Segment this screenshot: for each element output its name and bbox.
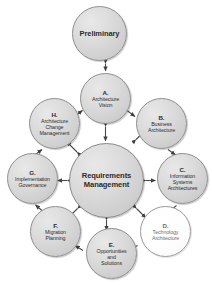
node-phase-f-letter: F. [45,222,66,229]
node-phase-a[interactable]: A.Architecture Vision [80,73,131,124]
node-phase-d[interactable]: D.Technology Architecture [140,206,191,257]
node-phase-h-letter: H. [40,111,70,118]
node-phase-c-label: C.Information Systems Architectures [166,166,200,192]
node-phase-a-letter: A. [92,89,119,96]
node-phase-h[interactable]: H.Architecture Change Management [29,98,80,149]
node-phase-b-letter: B. [148,114,175,121]
node-phase-g-letter: G. [15,169,50,176]
node-phase-b-name: Business Architecture [148,121,175,133]
node-phase-d-label: D.Technology Architecture [150,222,181,242]
node-phase-h-label: H.Architecture Change Management [38,111,72,137]
node-phase-b[interactable]: B.Business Architecture [136,98,187,149]
node-phase-e[interactable]: E.Opportunities and Solutions [86,228,137,279]
node-phase-g-label: G.Implementation Governance [13,169,52,189]
node-phase-d-letter: D. [152,222,179,229]
node-phase-a-label: A.Architecture Vision [90,89,121,109]
node-phase-c-name: Information Systems Architectures [168,173,198,191]
node-phase-e-letter: E. [96,241,126,248]
adm-cycle-diagram: Preliminary A.Architecture Vision B.Busi… [0,0,212,285]
node-phase-c[interactable]: C.Information Systems Architectures [157,153,208,204]
node-preliminary[interactable]: Preliminary [72,6,127,61]
node-preliminary-label: Preliminary [78,30,122,38]
node-phase-d-name: Technology Architecture [152,229,179,241]
node-phase-c-letter: C. [168,166,198,173]
node-phase-e-name: Opportunities and Solutions [96,248,126,266]
node-phase-g-name: Implementation Governance [15,176,50,188]
node-phase-f-name: Migration Planning [45,229,66,241]
node-phase-f[interactable]: F.Migration Planning [30,206,81,257]
node-phase-a-name: Architecture Vision [92,96,119,108]
node-requirements-management-label: Requirements Management [80,172,133,190]
node-phase-g[interactable]: G.Implementation Governance [7,153,58,204]
connector-ring-a-b [127,111,135,117]
node-phase-b-label: B.Business Architecture [146,114,177,134]
node-phase-h-name: Architecture Change Management [40,118,70,136]
node-phase-e-label: E.Opportunities and Solutions [94,241,128,267]
node-requirements-management[interactable]: Requirements Management [69,143,144,218]
node-phase-f-label: F.Migration Planning [43,222,68,242]
